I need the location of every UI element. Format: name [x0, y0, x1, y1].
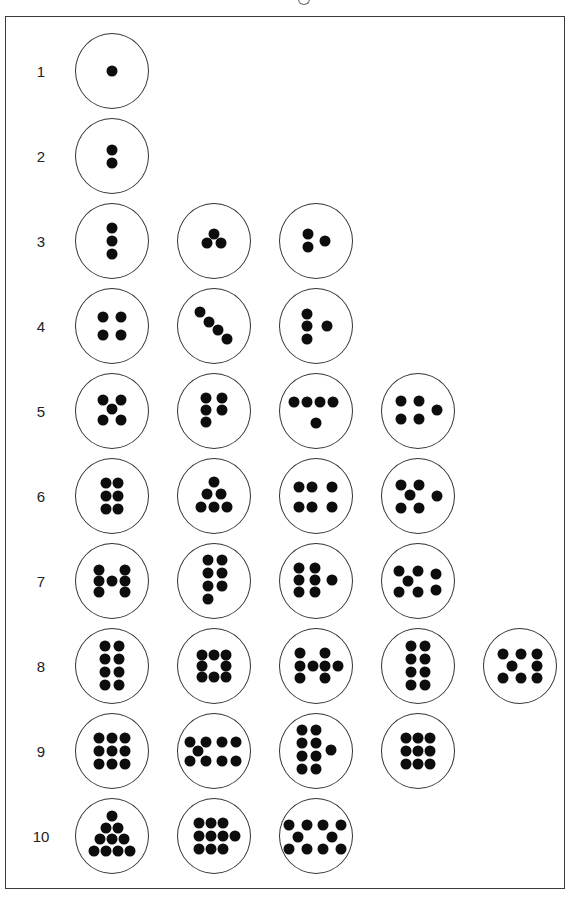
dot-icon	[420, 667, 431, 678]
dot-icon	[310, 563, 321, 574]
dot-icon	[406, 654, 417, 665]
dot-pattern-circle	[279, 798, 353, 874]
dot-icon	[311, 751, 322, 762]
dot-icon	[120, 565, 131, 576]
dot-icon	[107, 66, 118, 77]
dot-icon	[311, 418, 322, 429]
dot-icon	[302, 844, 313, 855]
row-label: 2	[21, 148, 61, 165]
dot-icon	[107, 145, 118, 156]
dot-icon	[327, 502, 338, 513]
dot-icon	[230, 831, 241, 842]
dot-icon	[101, 504, 112, 515]
dot-icon	[201, 417, 212, 428]
dot-icon	[217, 581, 228, 592]
dot-icon	[507, 661, 518, 672]
dot-icon	[107, 223, 118, 234]
dot-icon	[336, 820, 347, 831]
dot-icon	[94, 576, 105, 587]
dot-icon	[185, 756, 196, 767]
dot-icon	[396, 414, 407, 425]
dot-icon	[113, 491, 124, 502]
dot-icon	[310, 587, 321, 598]
dot-icon	[320, 661, 331, 672]
dot-icon	[221, 672, 232, 683]
dot-icon	[119, 834, 130, 845]
dot-pattern-circle	[279, 203, 353, 279]
dot-icon	[294, 587, 305, 598]
dot-icon	[414, 414, 425, 425]
dot-icon	[113, 823, 124, 834]
dot-icon	[120, 576, 131, 587]
dot-pattern-circle	[177, 713, 251, 789]
dot-icon	[320, 673, 331, 684]
dot-icon	[406, 641, 417, 652]
dot-icon	[209, 672, 220, 683]
row-label: 8	[21, 658, 61, 675]
dot-icon	[295, 648, 306, 659]
dot-icon	[114, 680, 125, 691]
dot-icon	[320, 648, 331, 659]
dot-icon	[206, 818, 217, 829]
dot-icon	[209, 650, 220, 661]
dot-icon	[203, 568, 214, 579]
dot-icon	[221, 650, 232, 661]
dot-icon	[401, 746, 412, 757]
dot-icon	[107, 811, 118, 822]
dot-icon	[209, 477, 220, 488]
dot-icon	[107, 746, 118, 757]
dot-icon	[302, 321, 313, 332]
dot-pattern-circle	[177, 373, 251, 449]
dot-icon	[201, 756, 212, 767]
dot-icon	[401, 733, 412, 744]
dot-icon	[203, 555, 214, 566]
dot-icon	[328, 397, 339, 408]
dot-pattern-circle	[177, 458, 251, 534]
row-label: 9	[21, 743, 61, 760]
dot-icon	[322, 321, 333, 332]
dot-icon	[217, 555, 228, 566]
dot-icon	[216, 489, 227, 500]
row-label: 4	[21, 318, 61, 335]
dot-icon	[202, 238, 213, 249]
dot-icon	[107, 576, 118, 587]
dot-icon	[101, 491, 112, 502]
dot-icon	[327, 832, 338, 843]
dot-icon	[396, 396, 407, 407]
dot-icon	[396, 503, 407, 514]
dot-pattern-circle	[75, 118, 149, 194]
dot-icon	[202, 489, 213, 500]
dot-icon	[315, 397, 326, 408]
dot-icon	[113, 846, 124, 857]
dot-icon	[303, 229, 314, 240]
dot-icon	[107, 249, 118, 260]
dot-icon	[295, 673, 306, 684]
dot-icon	[302, 820, 313, 831]
dot-icon	[213, 325, 224, 336]
dot-pattern-circle	[381, 628, 455, 704]
dot-pattern-circle	[279, 288, 353, 364]
row-label: 6	[21, 488, 61, 505]
dot-icon	[394, 587, 405, 598]
dot-icon	[116, 395, 127, 406]
dot-icon	[532, 673, 543, 684]
dot-icon	[197, 650, 208, 661]
dot-icon	[113, 504, 124, 515]
dot-icon	[206, 831, 217, 842]
dot-icon	[120, 759, 131, 770]
dot-icon	[94, 565, 105, 576]
dot-icon	[94, 746, 105, 757]
dot-icon	[217, 568, 228, 579]
dot-icon	[222, 502, 233, 513]
dot-icon	[532, 661, 543, 672]
dot-icon	[98, 395, 109, 406]
dot-icon	[194, 844, 205, 855]
dot-pattern-circle	[177, 203, 251, 279]
dot-icon	[203, 581, 214, 592]
dot-pattern-circle	[279, 373, 353, 449]
dot-icon	[294, 482, 305, 493]
dot-icon	[336, 844, 347, 855]
row-label: 3	[21, 233, 61, 250]
dot-icon	[432, 491, 443, 502]
dot-icon	[216, 238, 227, 249]
